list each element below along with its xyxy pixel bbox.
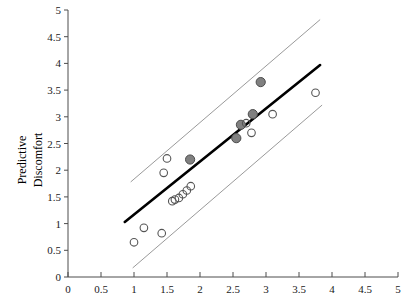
y-tick-label: 2 [56,164,62,176]
x-tick-label: 4 [329,283,335,295]
x-tick-label: 4.5 [358,283,372,295]
x-tick-label: 5 [395,283,401,295]
y-tick-label: 3 [56,111,62,123]
y-tick-label: 1 [56,218,62,230]
x-tick-label: 2.5 [226,283,240,295]
figure-background [0,0,410,299]
x-tick-label: 1.5 [160,283,174,295]
x-tick-label: 1 [131,283,137,295]
x-tick-label: 3 [263,283,269,295]
y-axis-label-line2: Discomfort [31,132,45,187]
y-tick-label: 1.5 [47,191,61,203]
scatter-plot-figure: Predictive Discomfort 00.511.522.533.544… [0,0,410,299]
x-tick-label: 3.5 [292,283,306,295]
y-tick-label: 0.5 [47,244,61,256]
x-tick-label: 0 [65,283,71,295]
y-tick-label: 4 [56,57,62,69]
y-tick-label: 3.5 [47,84,61,96]
data-point-filled [186,155,195,164]
plot-canvas: Predictive Discomfort 00.511.522.533.544… [0,0,410,299]
y-tick-label: 2.5 [47,138,61,150]
data-point-filled [248,110,257,119]
data-point-filled [232,134,241,143]
x-tick-label: 0.5 [94,283,108,295]
data-point-filled [236,120,245,129]
y-tick-label: 0 [56,271,62,283]
y-axis-label-line1: Predictive [15,136,29,185]
y-tick-label: 4.5 [47,31,61,43]
y-tick-label: 5 [56,4,62,16]
x-tick-label: 2 [197,283,203,295]
data-point-filled [256,77,265,86]
